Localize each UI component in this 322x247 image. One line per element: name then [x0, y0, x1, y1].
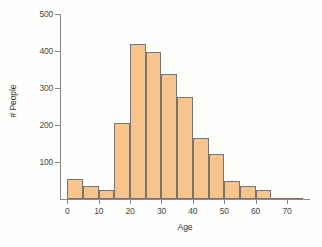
x-axis-tick: [130, 199, 131, 204]
histogram-bar: [114, 123, 130, 199]
y-axis-tick-label: 500: [27, 9, 53, 19]
y-axis-tick-label: 400: [27, 46, 53, 56]
x-axis-tick: [193, 199, 194, 204]
x-axis-tick-label: 20: [118, 206, 142, 216]
y-axis-tick-label: 100: [27, 157, 53, 167]
x-axis-tick-label: 10: [87, 206, 111, 216]
bars-layer: [61, 14, 309, 199]
plot-area: [61, 14, 309, 199]
histogram-bar: [240, 186, 256, 199]
histogram-bar: [256, 190, 272, 199]
x-axis-tick: [67, 199, 68, 204]
x-axis-line: [60, 199, 310, 200]
x-axis-tick-label: 60: [244, 206, 268, 216]
histogram-bar: [193, 138, 209, 199]
histogram-bar: [67, 179, 83, 199]
histogram-bar: [224, 181, 240, 199]
histogram-bar: [271, 198, 287, 199]
histogram-bar: [130, 44, 146, 199]
x-axis-title: Age: [60, 222, 310, 232]
histogram-bar: [161, 74, 177, 199]
x-axis-tick-label: 40: [181, 206, 205, 216]
histogram-bar: [177, 97, 193, 199]
histogram-bar: [99, 190, 115, 199]
x-axis-tick: [287, 199, 288, 204]
y-axis-tick-label: 200: [27, 120, 53, 130]
x-axis-tick-label: 70: [275, 206, 299, 216]
x-axis-tick: [224, 199, 225, 204]
x-axis-tick: [161, 199, 162, 204]
x-axis-tick-label: 50: [212, 206, 236, 216]
histogram-bar: [146, 52, 162, 199]
x-axis-tick: [99, 199, 100, 204]
x-axis-tick-label: 30: [149, 206, 173, 216]
histogram-bar: [83, 186, 99, 199]
histogram-bar: [287, 198, 303, 199]
y-axis-title: # People: [8, 66, 18, 136]
x-axis-tick-label: 0: [55, 206, 79, 216]
histogram-bar: [209, 154, 225, 200]
y-axis-tick-label: 300: [27, 83, 53, 93]
x-axis-tick: [256, 199, 257, 204]
histogram-chart: 100200300400500 010203040506070 # People…: [0, 0, 322, 247]
